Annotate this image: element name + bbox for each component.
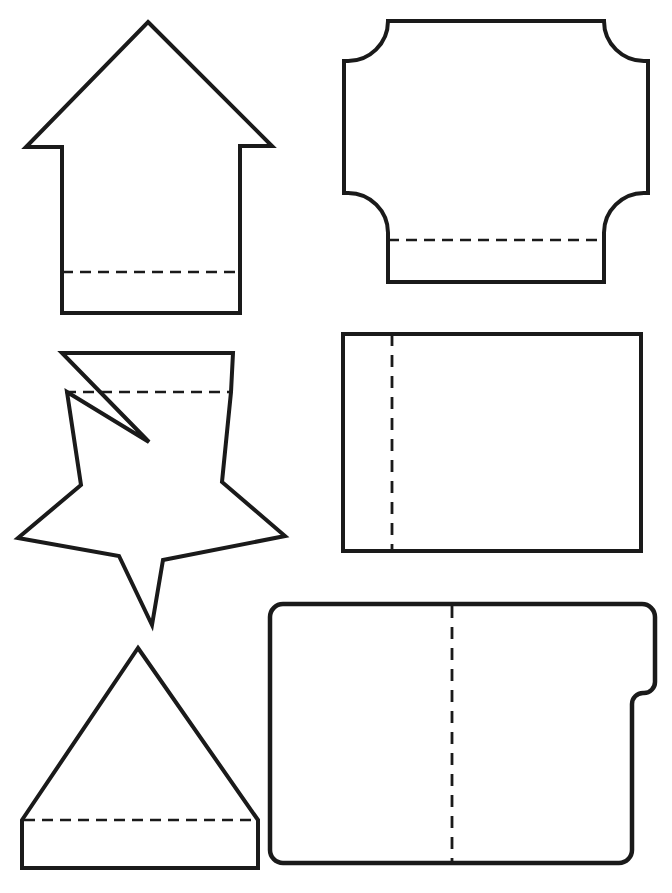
template-sheet — [0, 0, 672, 893]
shape-plain-rectangle — [343, 334, 641, 551]
shape-concave-corner-rectangle — [344, 21, 648, 282]
shapes-canvas — [0, 0, 672, 893]
notched-rounded-rectangle-outline — [270, 604, 655, 863]
concave-corner-rectangle-outline — [344, 21, 648, 282]
shape-notched-rounded-rectangle — [270, 604, 655, 863]
plain-rectangle-outline — [343, 334, 641, 551]
